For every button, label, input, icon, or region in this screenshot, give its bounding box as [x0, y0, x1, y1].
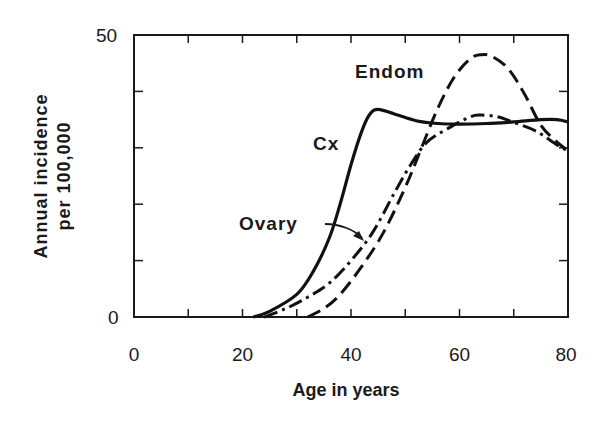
- x-tick-label-0: 0: [129, 344, 140, 365]
- series-line-ovary: [264, 115, 568, 317]
- x-tick-label-40: 40: [340, 344, 361, 365]
- series-lines: [253, 54, 568, 317]
- y-tick-label-0: 0: [108, 307, 119, 328]
- label-ovary: Ovary: [239, 213, 298, 234]
- x-tick-label-20: 20: [232, 344, 253, 365]
- y-tick-label-50: 50: [96, 25, 117, 46]
- axis-ticks: [134, 35, 568, 317]
- label-endom: Endom: [355, 61, 424, 82]
- plot-frame: [134, 35, 568, 317]
- y-axis-title-line1: Annual incidence: [31, 93, 51, 258]
- x-axis-title: Age in years: [292, 380, 399, 400]
- x-tick-label-80: 80: [555, 344, 576, 365]
- label-cx: Cx: [313, 133, 339, 154]
- series-line-cx: [253, 109, 568, 317]
- x-tick-label-60: 60: [449, 344, 470, 365]
- incidence-line-chart: 50 0 0 20 40 60 80 Age in years Annual i…: [0, 0, 609, 422]
- y-axis-title-line2: per 100,000: [54, 121, 74, 230]
